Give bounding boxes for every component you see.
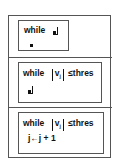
while-body[interactable] (30, 39, 33, 49)
while-keyword: while (23, 68, 44, 78)
rhs: thres (73, 68, 94, 78)
rhs: thres (73, 118, 94, 128)
body-placeholder-icon[interactable] (28, 86, 33, 93)
while-block-2[interactable]: while vj ≤thres (18, 62, 102, 103)
while-header: while vj ≤thres (23, 118, 94, 131)
assignment-statement: j←j + 1 (28, 133, 56, 143)
while-body[interactable] (28, 84, 33, 94)
while-header: while vj ≤thres (23, 68, 94, 81)
section-divider (8, 57, 112, 58)
while-block-1[interactable]: while (18, 20, 69, 51)
body-placeholder-icon[interactable] (30, 44, 33, 47)
while-keyword: while (24, 25, 45, 35)
condition-placeholder-icon[interactable] (53, 27, 58, 34)
subscript: j (59, 123, 60, 129)
section-divider (8, 107, 112, 108)
abs-value: vj (52, 119, 64, 131)
while-body[interactable]: j←j + 1 (28, 133, 56, 143)
subscript: j (59, 73, 60, 79)
while-keyword: while (23, 118, 44, 128)
while-block-3[interactable]: while vj ≤thres j←j + 1 (18, 112, 104, 154)
abs-value: vj (52, 69, 64, 81)
while-header: while (24, 25, 58, 35)
